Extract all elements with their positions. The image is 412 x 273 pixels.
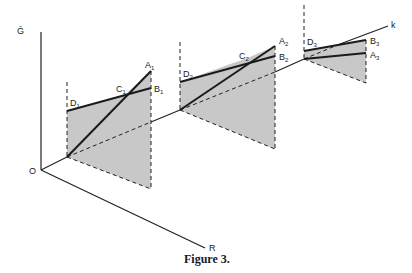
- label-d1: D1: [70, 98, 81, 109]
- k-axis-segment-1: [151, 110, 180, 122]
- label-b1: B1: [154, 84, 164, 95]
- label-d3: D3: [307, 37, 318, 48]
- label-a3: A3: [370, 50, 380, 61]
- label-d2: D2: [183, 69, 194, 80]
- origin-label: O: [29, 166, 36, 176]
- k-axis-segment-0: [41, 157, 67, 170]
- label-b3: B3: [370, 36, 380, 47]
- label-b2: B2: [279, 52, 289, 63]
- label-c2: C2: [239, 51, 250, 62]
- figure-caption: Figure 3.: [184, 252, 230, 266]
- label-a1: A1: [145, 60, 155, 71]
- label-a2: A2: [279, 36, 289, 47]
- panel-2-shaded-region: [180, 46, 275, 149]
- label-c1: C1: [116, 84, 127, 95]
- k-axis-label: k: [391, 20, 396, 30]
- figure-3-diagram: Ḡ O R k D1 C1 A1 B1 D2 C2 A2 B2 D3 B3 A3…: [0, 0, 412, 273]
- r-axis: [41, 170, 205, 248]
- g-axis-label: Ḡ: [17, 26, 24, 36]
- panel-1-shaded-region: [67, 71, 151, 189]
